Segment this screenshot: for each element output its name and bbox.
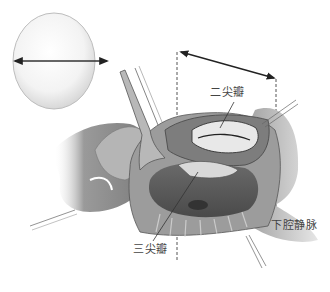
surgical-illustration: 二尖瓣 三尖瓣 下腔静脉	[0, 0, 330, 292]
label-tricuspid-valve: 三尖瓣	[133, 240, 168, 256]
label-mitral-valve: 二尖瓣	[210, 83, 245, 99]
label-inferior-vena-cava: 下腔静脉	[271, 216, 317, 232]
sizer-disc	[13, 13, 107, 109]
